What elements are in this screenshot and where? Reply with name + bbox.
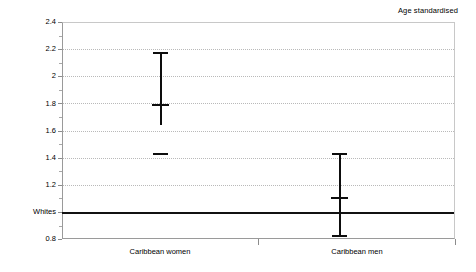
- reference-line-whites: [62, 212, 454, 214]
- y-axis-label-1-2: 1.2: [46, 181, 56, 189]
- y-axis-label-0-8: 0.8: [46, 235, 56, 243]
- gridline-2: [63, 76, 454, 77]
- errorbar-stem: [339, 153, 341, 234]
- plot-area: [62, 22, 455, 239]
- chart-annotation-age-standardised: Age standardised: [398, 6, 458, 15]
- y-axis-label-1-6: 1.6: [46, 127, 56, 135]
- y-axis-tick-0-8: [58, 239, 62, 240]
- errorbar-cap-upper: [153, 52, 168, 54]
- y-axis-label-2: 2: [52, 72, 56, 80]
- y-axis-label-1-4: 1.4: [46, 154, 56, 162]
- gridline-1-4: [63, 158, 454, 159]
- gridline-1-2: [63, 185, 454, 186]
- x-axis-tick-divider: [258, 239, 259, 245]
- x-axis-label-caribbean-women: Caribbean women: [100, 247, 220, 256]
- errorbar-cap-lower: [332, 235, 347, 237]
- y-axis-label-1-8: 1.8: [46, 100, 56, 108]
- errorbar-cap-upper: [332, 153, 347, 155]
- errorbar-point-marker: [331, 197, 348, 199]
- gridline-1-6: [63, 131, 454, 132]
- x-axis-tick-end: [455, 239, 456, 245]
- x-axis-label-caribbean-men: Caribbean men: [297, 247, 417, 256]
- y-axis-label-whites: Whites: [33, 208, 56, 216]
- gridline-2-2: [63, 49, 454, 50]
- gridline-1-8: [63, 103, 454, 104]
- chart-container: Age standardised 2.4 2.2 2 1.8 1.6 1.4 1…: [0, 0, 476, 272]
- y-axis-label-2-2: 2.2: [46, 45, 56, 53]
- errorbar-point-marker: [152, 104, 169, 106]
- y-axis-label-2-4: 2.4: [46, 18, 56, 26]
- errorbar-stem: [160, 52, 162, 126]
- errorbar-cap-lower: [153, 153, 168, 155]
